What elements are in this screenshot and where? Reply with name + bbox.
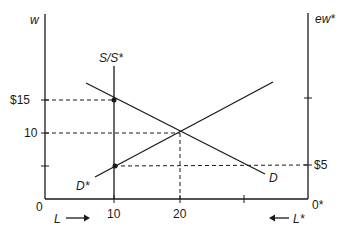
tick-label-L20: 20 bbox=[173, 207, 187, 221]
L-arrowhead-icon bbox=[84, 215, 90, 222]
demand-label-D: D bbox=[269, 171, 278, 185]
right-axis-label: ew* bbox=[315, 12, 335, 26]
L-star-arrowhead-icon bbox=[269, 215, 275, 222]
point-15 bbox=[112, 98, 117, 103]
guide-5 bbox=[114, 165, 308, 166]
L-label: L bbox=[54, 212, 61, 226]
point-5 bbox=[113, 164, 118, 169]
tick-label-10: 10 bbox=[24, 126, 38, 140]
labor-market-diagram: w ew* $15 10 $5 0 0* 10 20 S/S* D D* L L… bbox=[0, 0, 351, 234]
left-axis-label: w bbox=[30, 13, 40, 27]
supply-label: S/S* bbox=[99, 51, 123, 65]
demand-curve-D-star bbox=[95, 82, 273, 177]
origin-left: 0 bbox=[36, 200, 43, 214]
demand-label-D-star: D* bbox=[76, 179, 90, 193]
L-star-label: L* bbox=[293, 212, 305, 226]
origin-right: 0* bbox=[312, 198, 324, 212]
tick-label-15: $15 bbox=[10, 93, 30, 107]
demand-curve-D bbox=[86, 83, 265, 174]
tick-label-L10: 10 bbox=[107, 207, 121, 221]
tick-label-5: $5 bbox=[314, 158, 328, 172]
